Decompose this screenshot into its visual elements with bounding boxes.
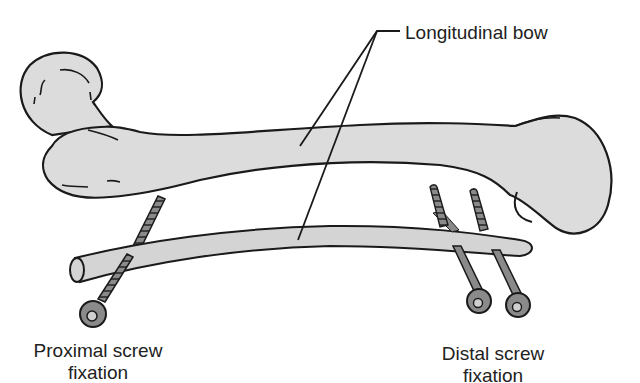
label-proximal-line1: Proximal screw [8,340,188,362]
label-distal-line2: fixation [418,365,568,383]
femur [21,53,612,234]
label-distal-line1: Distal screw [418,343,568,365]
label-proximal-line2: fixation [8,362,188,383]
femoral-shaft [43,116,611,234]
label-longitudinal-bow: Longitudinal bow [405,22,548,44]
femoral-head [21,53,112,135]
label-proximal-screw-fixation: Proximal screw fixation [8,340,188,383]
femur-rod-diagram [0,0,640,383]
label-distal-screw-fixation: Distal screw fixation [418,343,568,383]
